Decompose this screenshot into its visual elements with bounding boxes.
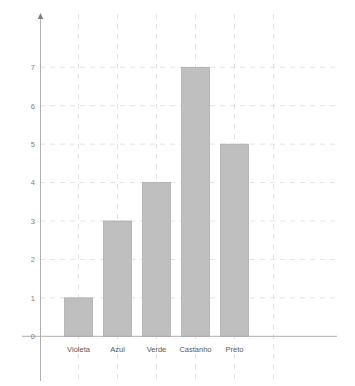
bar-azul[interactable]	[104, 221, 132, 336]
category-label-verde: Verde	[147, 345, 167, 354]
category-label-castanho: Castanho	[179, 345, 211, 354]
y-tick-label: 6	[31, 102, 35, 111]
bar-chart: 01234567 VioletaAzulVerdeCastanhoPreto	[0, 0, 355, 386]
bar-violeta[interactable]	[65, 298, 93, 336]
y-tick-label: 2	[31, 255, 35, 264]
bar-castanho[interactable]	[182, 67, 210, 336]
y-tick-label: 3	[31, 217, 35, 226]
x-category-labels: VioletaAzulVerdeCastanhoPreto	[67, 345, 243, 354]
y-tick-label: 0	[31, 332, 35, 341]
chart-canvas: 01234567 VioletaAzulVerdeCastanhoPreto	[0, 0, 355, 386]
bar-verde[interactable]	[143, 183, 171, 337]
bar-preto[interactable]	[221, 144, 249, 336]
y-axis-arrow-icon	[38, 13, 44, 19]
y-tick-label: 5	[31, 140, 35, 149]
category-label-preto: Preto	[226, 345, 244, 354]
y-tick-labels: 01234567	[31, 63, 35, 341]
y-tick-label: 4	[31, 178, 35, 187]
category-label-violeta: Violeta	[67, 345, 91, 354]
y-tick-label: 7	[31, 63, 35, 72]
y-tick-label: 1	[31, 294, 35, 303]
category-label-azul: Azul	[110, 345, 125, 354]
